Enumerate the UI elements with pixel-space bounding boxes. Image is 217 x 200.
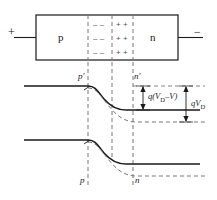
depletion-positive-charge-row-2: + + <box>116 35 128 43</box>
energy-arrow-q-vd <box>183 86 188 122</box>
energy-label-q-vd: qVD <box>191 99 205 110</box>
eq1-close-paren: ) <box>174 91 177 101</box>
valence-band-biased-curve <box>24 140 200 164</box>
valence-band-equilibrium-curve <box>88 142 205 176</box>
depletion-positive-charge-row-3: + + <box>116 49 128 57</box>
right-terminal-sign: − <box>194 26 201 38</box>
band-diagram-figure: + − p n – – – – – – + + + + + + p′ n′ p … <box>0 0 217 200</box>
n-region-label: n <box>150 32 156 43</box>
bottom-p-label: p <box>80 176 85 185</box>
energy-label-q-vd-minus-v: q(VD–V) <box>148 92 177 103</box>
bottom-n-label: n <box>135 176 140 185</box>
depletion-negative-charge-row-3: – – <box>93 49 104 57</box>
quasi-p-label: p′ <box>78 72 84 81</box>
quasi-n-label: n′ <box>134 72 140 81</box>
depletion-positive-charge-row-1: + + <box>116 21 128 29</box>
eq2-vd-sub: D <box>200 103 205 110</box>
left-terminal-sign: + <box>8 26 15 38</box>
figure-canvas <box>0 0 217 200</box>
depletion-negative-charge-row-2: – – <box>93 35 104 43</box>
depletion-negative-charge-row-1: – – <box>93 21 104 29</box>
p-region-label: p <box>58 32 64 43</box>
energy-arrow-q-vd-minus-v <box>140 86 145 110</box>
